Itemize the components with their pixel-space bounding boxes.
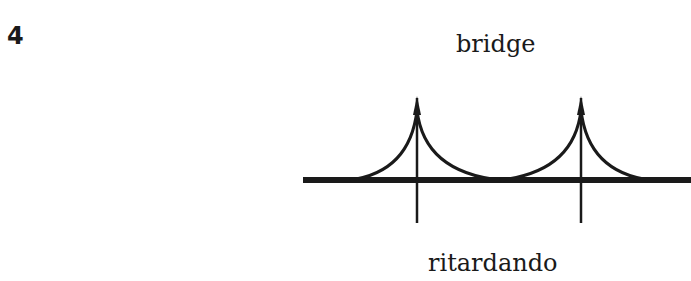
- cable-left-outer: [350, 110, 417, 180]
- left-tower-peak: [413, 96, 421, 115]
- bridge-diagram: [0, 0, 691, 281]
- bottom-label: ritardando: [428, 249, 558, 277]
- right-tower-peak: [577, 96, 585, 115]
- cable-left-inner: [417, 110, 500, 180]
- cable-right-outer: [581, 110, 650, 180]
- cable-right-inner: [500, 110, 581, 180]
